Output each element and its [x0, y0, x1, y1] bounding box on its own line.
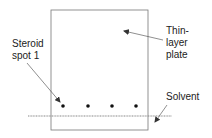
solvent-label: Solvent — [166, 91, 199, 102]
tlc-diagram — [0, 0, 212, 138]
plate-label-line2: layer — [166, 37, 188, 48]
steroid-spot-3 — [110, 104, 114, 108]
plate-label-line3: plate — [166, 49, 188, 60]
plate-arrow — [124, 31, 163, 40]
steroid-spot-1 — [61, 104, 65, 108]
steroid-spot-4 — [134, 104, 138, 108]
steroid-arrow — [27, 63, 60, 102]
plate-label-line1: Thin- — [166, 25, 189, 36]
solvent-arrow — [155, 105, 167, 122]
thin-layer-plate — [51, 10, 148, 130]
steroid-label-line1: Steroid — [12, 38, 44, 49]
steroid-label-line2: spot 1 — [12, 50, 39, 61]
steroid-spot-2 — [86, 104, 90, 108]
